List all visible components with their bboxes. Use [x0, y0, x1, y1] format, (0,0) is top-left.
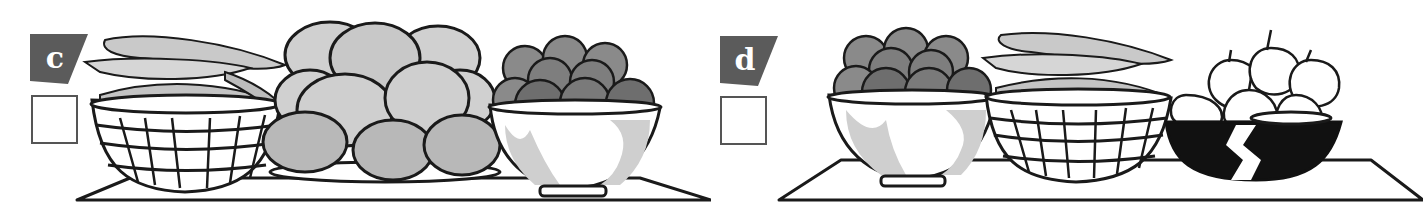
- option-d-illustration: [711, 0, 1423, 217]
- onions-icon: [1171, 30, 1339, 122]
- mangoes-icon: [263, 22, 500, 182]
- option-d-panel: d: [711, 0, 1423, 217]
- option-c-panel: c: [0, 0, 711, 217]
- option-c-illustration: [0, 0, 711, 217]
